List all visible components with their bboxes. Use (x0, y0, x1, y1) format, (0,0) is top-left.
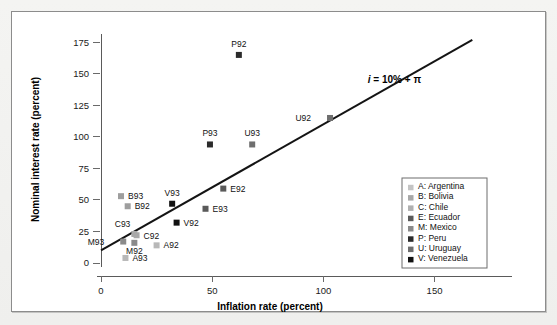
data-point-marker[interactable] (131, 231, 137, 237)
data-point-marker[interactable] (125, 203, 131, 209)
legend-swatch (408, 247, 414, 253)
data-point-marker[interactable] (207, 141, 213, 147)
data-point-label: M93 (88, 237, 105, 247)
x-tick-label: 0 (98, 285, 103, 296)
data-point-label: U92 (295, 113, 311, 123)
data-point-label: C93 (115, 219, 131, 229)
legend-entry-label: E: Ecuador (418, 212, 460, 222)
data-point-label: P92 (231, 39, 246, 49)
y-axis-title: Nominal interest rate (percent) (30, 77, 41, 222)
data-point-marker[interactable] (203, 206, 209, 212)
legend-entry-label: C: Chile (418, 202, 449, 212)
legend-swatch (408, 205, 414, 211)
legend-swatch (408, 185, 414, 191)
legend-entry-label: B: Bolivia (418, 191, 454, 201)
data-point-label: U93 (244, 128, 260, 138)
data-point-label: P93 (202, 128, 217, 138)
data-point-marker[interactable] (327, 115, 333, 121)
data-point-label: V93 (165, 188, 180, 198)
y-tick-label: 50 (78, 194, 89, 205)
data-point-marker[interactable] (220, 186, 226, 192)
equation-annotation: i = 10% + π (368, 74, 422, 85)
data-point-label: B92 (135, 201, 150, 211)
legend-swatch (408, 226, 414, 232)
legend-entry-label: M: Mexico (418, 222, 457, 232)
equation-rest: = 10% + π (371, 74, 422, 85)
x-tick-label: 100 (315, 285, 331, 296)
data-point-label: B93 (128, 191, 143, 201)
y-tick-label: 25 (78, 226, 89, 237)
data-point-label: E93 (213, 204, 228, 214)
plot-area: 0255075100125150175050100150Inflation ra… (12, 12, 547, 313)
y-tick-label: 150 (73, 68, 89, 79)
data-point-label: E92 (230, 184, 245, 194)
data-point-marker[interactable] (174, 220, 180, 226)
legend-entry-label: P: Peru (418, 233, 447, 243)
scatter-chart: 0255075100125150175050100150Inflation ra… (12, 12, 547, 313)
legend-swatch (408, 236, 414, 242)
data-point-marker[interactable] (120, 239, 126, 245)
screenshot-root: 0255075100125150175050100150Inflation ra… (0, 0, 557, 325)
data-point-marker[interactable] (154, 242, 160, 248)
legend-swatch (408, 195, 414, 201)
y-tick-label: 0 (84, 257, 89, 268)
legend-entry-label: A: Argentina (418, 181, 465, 191)
x-axis-title: Inflation rate (percent) (217, 301, 323, 312)
y-tick-label: 125 (73, 100, 89, 111)
data-point-label: M92 (126, 246, 143, 256)
y-tick-label: 75 (78, 163, 89, 174)
data-point-label: A92 (164, 240, 179, 250)
x-tick-label: 50 (207, 285, 218, 296)
y-tick-label: 175 (73, 37, 89, 48)
data-point-marker[interactable] (122, 255, 128, 261)
figure-frame: 0255075100125150175050100150Inflation ra… (11, 11, 546, 312)
y-tick-label: 100 (73, 131, 89, 142)
data-point-marker[interactable] (169, 201, 175, 207)
data-point-label: V92 (184, 218, 199, 228)
legend-swatch (408, 216, 414, 222)
data-point-marker[interactable] (249, 141, 255, 147)
x-tick-label: 150 (427, 285, 443, 296)
data-point-marker[interactable] (236, 52, 242, 58)
data-point-marker[interactable] (118, 193, 124, 199)
legend-entry-label: U: Uruguay (418, 243, 462, 253)
legend-entry-label: V: Venezuela (418, 253, 468, 263)
legend-swatch (408, 257, 414, 263)
data-point-label: C92 (144, 231, 160, 241)
